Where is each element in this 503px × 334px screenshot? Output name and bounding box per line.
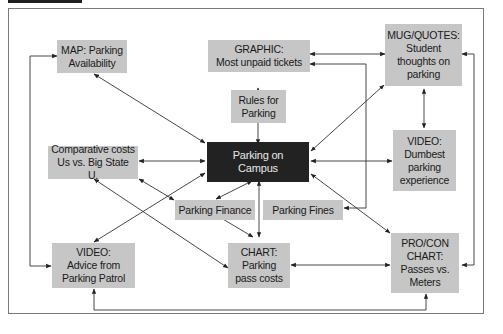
node-video-dumbest-parking: VIDEO: Dumbest parking experience — [393, 130, 456, 191]
node-label: Parking on Campus — [233, 149, 284, 175]
node-graphic-unpaid-tickets: GRAPHIC: Most unpaid tickets — [208, 40, 310, 72]
node-label: VIDEO: Dumbest parking experience — [400, 135, 449, 187]
node-parking-fines: Parking Fines — [263, 200, 343, 220]
node-chart-pass-costs: CHART: Parking pass costs — [228, 243, 290, 288]
node-label: Rules for Parking — [238, 94, 278, 120]
node-parking-finance: Parking Finance — [175, 200, 255, 220]
node-map-parking-availability: MAP: Parking Availability — [57, 40, 127, 73]
node-comparative-costs: Comparative costs Us vs. Big State U. — [48, 146, 138, 179]
node-label: Parking Fines — [272, 204, 334, 217]
node-mug-quotes: MUG/QUOTES: Student thoughts on parking — [385, 24, 462, 86]
node-label: Parking Finance — [179, 204, 252, 217]
node-label: MUG/QUOTES: Student thoughts on parking — [387, 29, 459, 81]
node-label: Comparative costs Us vs. Big State U. — [51, 143, 135, 182]
node-video-parking-patrol: VIDEO: Advice from Parking Patrol — [52, 243, 135, 288]
node-rules-for-parking: Rules for Parking — [231, 90, 286, 123]
node-procon-chart: PRO/CON CHART: Passes vs. Meters — [391, 233, 459, 293]
node-label: CHART: Parking pass costs — [235, 246, 283, 285]
node-label: MAP: Parking Availability — [61, 44, 123, 70]
node-parking-on-campus: Parking on Campus — [207, 142, 309, 182]
node-label: VIDEO: Advice from Parking Patrol — [62, 246, 125, 285]
node-label: PRO/CON CHART: Passes vs. Meters — [401, 237, 450, 289]
node-label: GRAPHIC: Most unpaid tickets — [216, 43, 302, 69]
